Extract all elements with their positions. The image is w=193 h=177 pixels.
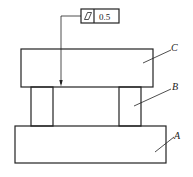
leader-line xyxy=(61,16,81,84)
leader-a xyxy=(155,137,174,152)
label-a: A xyxy=(173,130,181,141)
tolerance-value: 0.5 xyxy=(99,12,111,22)
feature-control-frame: 0.5 xyxy=(81,9,119,23)
arrowhead-icon xyxy=(59,80,62,87)
part-b-right-column xyxy=(119,87,141,126)
flatness-symbol-icon xyxy=(85,13,92,20)
part-a-base-plate xyxy=(15,126,166,163)
part-b-left-column xyxy=(31,87,53,126)
tolerance-leader xyxy=(59,16,81,87)
assembly-drawing: 0.5 C B A xyxy=(0,0,193,177)
leader-b xyxy=(134,89,171,106)
leader-c xyxy=(143,50,171,63)
label-b: B xyxy=(172,81,178,92)
label-c: C xyxy=(171,42,178,53)
part-c-upper-plate xyxy=(21,49,153,87)
